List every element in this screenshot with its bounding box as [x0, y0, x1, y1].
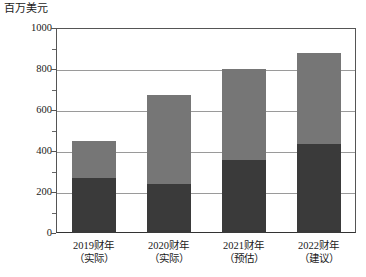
- y-axis-major-tick: [51, 28, 56, 29]
- y-axis-minor-tick: [52, 213, 56, 214]
- x-label-status: （实际）: [131, 252, 206, 265]
- x-label-year: 2021财年: [206, 239, 281, 252]
- y-axis-tick-label: 400: [4, 146, 52, 157]
- bar-segment-upper: [72, 141, 116, 178]
- bar-stack: [72, 28, 116, 233]
- bar-segment-lower: [147, 184, 191, 233]
- bar-segment-upper: [297, 53, 341, 144]
- x-label-year: 2020财年: [131, 239, 206, 252]
- bar-segment-lower: [222, 160, 266, 233]
- y-axis-tick-label: 0: [4, 228, 52, 239]
- bar-segment-upper: [222, 69, 266, 160]
- y-axis-minor-tick: [52, 172, 56, 173]
- x-axis-tick-label: 2021财年（预估）: [206, 239, 281, 265]
- y-axis-major-tick: [51, 192, 56, 193]
- y-axis-tick-label: 200: [4, 187, 52, 198]
- y-axis-major-tick: [51, 110, 56, 111]
- bar-chart: 百万美元 02004006008001000 2019财年（实际）2020财年（…: [0, 0, 366, 277]
- bar-stack: [222, 28, 266, 233]
- x-axis-tick-label: 2020财年（实际）: [131, 239, 206, 265]
- x-axis-tick-label: 2022财年（建议）: [281, 239, 356, 265]
- x-label-year: 2019财年: [56, 239, 131, 252]
- x-label-status: （预估）: [206, 252, 281, 265]
- x-label-status: （实际）: [56, 252, 131, 265]
- y-axis-tick-label: 800: [4, 64, 52, 75]
- y-axis-major-tick: [51, 69, 56, 70]
- y-axis-unit-title: 百万美元: [4, 2, 48, 15]
- bar-segment-lower: [297, 144, 341, 233]
- y-axis-major-tick: [51, 151, 56, 152]
- bar-stack: [297, 28, 341, 233]
- y-axis-major-tick: [51, 233, 56, 234]
- x-label-year: 2022财年: [281, 239, 356, 252]
- y-axis-minor-tick: [52, 90, 56, 91]
- bar-stack: [147, 28, 191, 233]
- bar-segment-lower: [72, 178, 116, 233]
- y-axis-tick-label: 600: [4, 105, 52, 116]
- y-axis-tick-label: 1000: [4, 23, 52, 34]
- x-axis-tick-label: 2019财年（实际）: [56, 239, 131, 265]
- bar-segment-upper: [147, 95, 191, 184]
- y-axis-minor-tick: [52, 131, 56, 132]
- x-label-status: （建议）: [281, 252, 356, 265]
- y-axis-minor-tick: [52, 49, 56, 50]
